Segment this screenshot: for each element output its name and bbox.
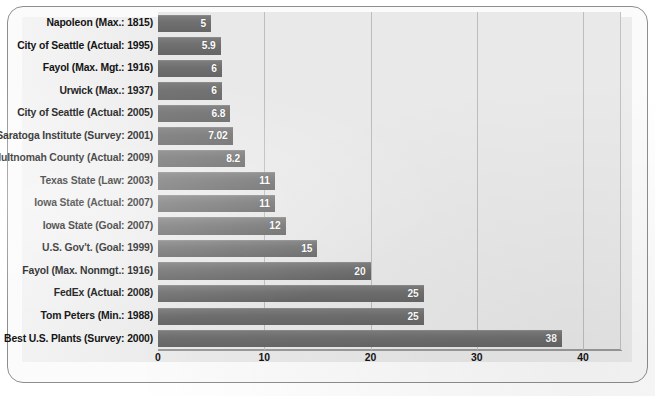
bar-value-label: 11	[259, 199, 275, 209]
category-label: Fayol (Max. Nonmgt.: 1916)	[0, 266, 153, 276]
bar-value-label: 6	[211, 64, 222, 74]
category-label: U.S. Gov't. (Goal: 1999)	[0, 243, 153, 253]
bar-row: City of Seattle (Actual: 2005)6.8	[0, 102, 655, 125]
category-label: Texas State (Law: 2003)	[0, 176, 153, 186]
bar: 6.8	[158, 105, 230, 122]
x-tick-label: 20	[351, 353, 391, 363]
bar-container: 6	[158, 60, 222, 77]
bar: 7.02	[158, 127, 233, 144]
bar-container: 25	[158, 308, 424, 325]
bar-value-label: 5	[201, 19, 212, 29]
x-tick-label: 40	[563, 353, 603, 363]
bar: 25	[158, 308, 424, 325]
category-label: Fayol (Max. Mgt.: 1916)	[0, 63, 153, 73]
bar-value-label: 25	[407, 312, 423, 322]
bar: 12	[158, 217, 286, 234]
bar-container: 5.9	[158, 37, 221, 54]
bar-container: 8.2	[158, 150, 245, 167]
bar-row: FedEx (Actual: 2008)25	[0, 282, 655, 305]
bar-container: 5	[158, 15, 211, 32]
bar-container: 6	[158, 82, 222, 99]
bar: 5	[158, 15, 211, 32]
category-label: Multnomah County (Actual: 2009)	[0, 153, 153, 163]
bar-row: Best U.S. Plants (Survey: 2000)38	[0, 327, 655, 350]
bar-value-label: 15	[301, 244, 317, 254]
bar-row: Iowa State (Actual: 2007)11	[0, 192, 655, 215]
bar: 20	[158, 262, 371, 279]
bar-container: 38	[158, 330, 562, 347]
x-tick-label: 30	[457, 353, 497, 363]
category-label: City of Seattle (Actual: 1995)	[0, 41, 153, 51]
category-label: Urwick (Max.: 1937)	[0, 86, 153, 96]
bar-row: Texas State (Law: 2003)11	[0, 170, 655, 193]
bar-container: 12	[158, 217, 286, 234]
bar-value-label: 38	[546, 334, 562, 344]
category-label: Iowa State (Actual: 2007)	[0, 198, 153, 208]
category-label: Saratoga Institute (Survey: 2001)	[0, 131, 153, 141]
bar-row: U.S. Gov't. (Goal: 1999)15	[0, 237, 655, 260]
bar: 5.9	[158, 37, 221, 54]
bar-value-label: 5.9	[202, 41, 221, 51]
bar: 38	[158, 330, 562, 347]
bar-row: Tom Peters (Min.: 1988)25	[0, 305, 655, 328]
bar: 15	[158, 240, 317, 257]
bar: 6	[158, 82, 222, 99]
bar-container: 6.8	[158, 105, 230, 122]
bar-value-label: 7.02	[208, 131, 232, 141]
bar-row: Saratoga Institute (Survey: 2001)7.02	[0, 125, 655, 148]
bar-value-label: 11	[259, 176, 275, 186]
x-axis-tick-labels: 010203040	[0, 353, 655, 369]
category-label: FedEx (Actual: 2008)	[0, 288, 153, 298]
chart-figure: Napoleon (Max.: 1815)5City of Seattle (A…	[0, 0, 655, 396]
bar: 8.2	[158, 150, 245, 167]
bar-row: Fayol (Max. Mgt.: 1916)6	[0, 57, 655, 80]
bar-container: 25	[158, 285, 424, 302]
bar-container: 20	[158, 262, 371, 279]
bar: 25	[158, 285, 424, 302]
bar-value-label: 20	[354, 267, 370, 277]
category-label: City of Seattle (Actual: 2005)	[0, 108, 153, 118]
category-label: Napoleon (Max.: 1815)	[0, 18, 153, 28]
bar: 6	[158, 60, 222, 77]
category-label: Best U.S. Plants (Survey: 2000)	[0, 334, 153, 344]
bar-row: Multnomah County (Actual: 2009)8.2	[0, 147, 655, 170]
bar-container: 11	[158, 172, 275, 189]
bar-row: Urwick (Max.: 1937)6	[0, 80, 655, 103]
category-label: Iowa State (Goal: 2007)	[0, 221, 153, 231]
bar-row: City of Seattle (Actual: 1995)5.9	[0, 35, 655, 58]
bar-container: 11	[158, 195, 275, 212]
bar: 11	[158, 172, 275, 189]
bar: 11	[158, 195, 275, 212]
bar-value-label: 8.2	[226, 154, 245, 164]
x-tick-label: 0	[138, 353, 178, 363]
bar-value-label: 6	[211, 86, 222, 96]
x-axis-line	[158, 350, 622, 351]
bar-row: Iowa State (Goal: 2007)12	[0, 215, 655, 238]
bar-container: 15	[158, 240, 317, 257]
bar-value-label: 25	[407, 289, 423, 299]
category-label: Tom Peters (Min.: 1988)	[0, 311, 153, 321]
bar-rows: Napoleon (Max.: 1815)5City of Seattle (A…	[0, 12, 655, 350]
x-tick-label: 10	[244, 353, 284, 363]
bar-row: Napoleon (Max.: 1815)5	[0, 12, 655, 35]
bar-value-label: 12	[269, 221, 285, 231]
bar-container: 7.02	[158, 127, 233, 144]
bar-value-label: 6.8	[211, 109, 230, 119]
bar-row: Fayol (Max. Nonmgt.: 1916)20	[0, 260, 655, 283]
